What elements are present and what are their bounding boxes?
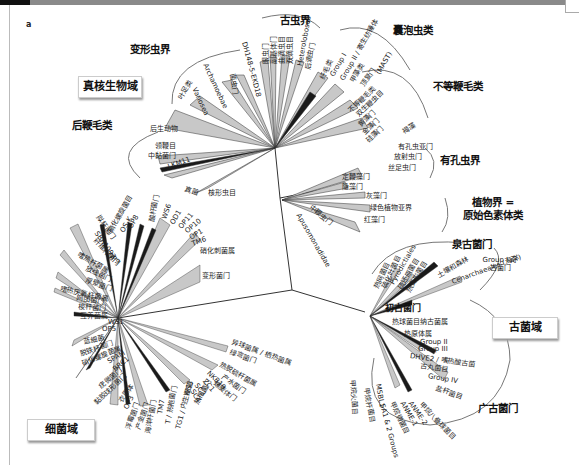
taxon-label: 绿色植物亚界 xyxy=(370,204,412,212)
group-euryarchaeota: 广古菌门 xyxy=(478,400,518,415)
taxon-label: 定鞭藻门 xyxy=(342,173,370,181)
group-amoebozoa: 变形虫界 xyxy=(130,41,170,56)
taxon-label: 后生动物 xyxy=(150,125,178,133)
group-opisthokonta: 后鞭毛类 xyxy=(72,117,112,132)
group-stramenopiles: 不等鞭毛类 xyxy=(433,78,483,93)
group-korarchaeota: 泉古菌门 xyxy=(452,236,492,251)
taxon-label: 热球菌目纳古菌属 xyxy=(392,318,448,326)
domain-bacteria: 细菌域 xyxy=(27,419,95,441)
taxon-label: 领鞭目 xyxy=(155,142,176,150)
group-rhizaria: 有孔虫界 xyxy=(440,152,480,167)
taxon-label: 有孔虫亚门 xyxy=(398,143,433,151)
taxon-label: 丝足虫门 xyxy=(388,164,416,172)
taxon-label: 眼虫门 xyxy=(262,43,270,64)
group-plantae: 植物界 = 原始色素体类 xyxy=(458,196,528,222)
taxon-label: 互养菌属 xyxy=(80,312,108,320)
taxon-label: 核形虫目 xyxy=(208,189,236,197)
taxon-label: 灰藻门 xyxy=(366,192,387,200)
taxon-label: 变形菌门 xyxy=(202,272,230,280)
domain-archaea: 古菌域 xyxy=(492,317,558,339)
domain-eukaryota: 真核生物域 xyxy=(78,76,142,98)
taxon-label: OP5 xyxy=(102,325,116,333)
taxon-label: 隐藻门 xyxy=(342,183,363,191)
taxon-label: Group III xyxy=(418,345,448,353)
taxon-label: 红藻门 xyxy=(364,216,385,224)
taxon-label: 中黏菌门 xyxy=(148,152,176,160)
taxon-label: 硝化刺菌属 xyxy=(200,247,235,255)
taxon-label: 曲滴虫目 xyxy=(278,36,286,64)
group-alveolata: 囊泡虫类 xyxy=(393,22,433,37)
panel-label: a xyxy=(26,20,31,29)
taxon-label: 放射虫门 xyxy=(394,153,422,161)
taxon-label: 副基体门 xyxy=(270,36,278,64)
group-nanoarchaeota: 初古菌门 xyxy=(385,301,421,314)
taxon-label: 双滴虫目 xyxy=(286,36,294,64)
taxon-label: 热原体属 xyxy=(404,330,432,338)
